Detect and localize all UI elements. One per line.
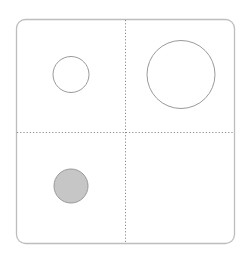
filled-circle-bottom-left [54,169,88,203]
grid-diagram [0,0,251,260]
